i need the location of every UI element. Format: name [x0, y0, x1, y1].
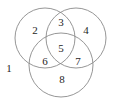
- venn-diagram: 1 2 3 4 5 6 7 8: [0, 0, 122, 106]
- region-label-left-only: 2: [28, 25, 42, 36]
- region-label-right-bottom: 7: [71, 56, 85, 67]
- region-label-right-only: 4: [79, 25, 93, 36]
- region-label-outside: 1: [2, 63, 16, 74]
- region-label-left-right: 3: [54, 17, 68, 28]
- region-label-left-bottom: 6: [38, 56, 52, 67]
- region-label-all-three: 5: [54, 43, 68, 54]
- region-label-bottom-only: 8: [55, 74, 69, 85]
